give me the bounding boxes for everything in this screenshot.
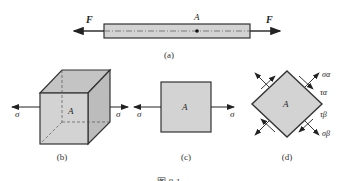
square-point-label: A (181, 102, 188, 112)
panel-b-caption: (b) (57, 152, 68, 162)
point-a-label: A (193, 12, 200, 22)
figure-caption: 图 8-1 (157, 177, 180, 181)
panel-d-caption: (d) (282, 152, 293, 162)
panel-a-bar (74, 24, 280, 38)
cube-stress-right-label: σ (116, 109, 121, 119)
tau-alpha-label: τα (320, 88, 328, 97)
cube-point-label: A (67, 106, 74, 116)
cube-stress-left-label: σ (15, 109, 20, 119)
sigma-alpha-label: σα (322, 70, 331, 79)
sigma-alpha-arrow (305, 73, 319, 87)
panel-c-caption: (c) (181, 152, 191, 162)
sigma-beta-label: σβ (322, 129, 330, 138)
stress-state-figure: F F A (a) A σ σ (b) A σ σ (c) A σα (0, 0, 338, 181)
sigma-beta-arrow (305, 121, 319, 135)
panel-a-caption: (a) (164, 50, 174, 60)
tau-beta-label: τβ (320, 110, 327, 119)
square-stress-right-label: σ (230, 109, 235, 119)
force-left-label: F (85, 14, 93, 25)
square-stress-left-label: σ (137, 109, 142, 119)
point-a-dot (195, 29, 199, 33)
rotated-point-label: A (282, 99, 289, 109)
force-right-label: F (265, 14, 273, 25)
